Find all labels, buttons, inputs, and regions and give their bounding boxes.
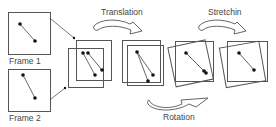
stage-rotated bbox=[168, 40, 214, 87]
overlay-segment-b bbox=[83, 53, 95, 75]
translated-frame-a bbox=[123, 41, 161, 83]
frame-1-point-a bbox=[18, 22, 22, 26]
frame-1-segment bbox=[20, 24, 35, 41]
translated-point bbox=[146, 79, 150, 83]
stretching-step: Stretchin bbox=[199, 7, 246, 34]
connector-frame-1 bbox=[51, 19, 74, 38]
stretched-point bbox=[252, 68, 256, 72]
stage-overlay bbox=[69, 41, 112, 88]
overlay-point bbox=[93, 73, 97, 77]
stretched-point bbox=[237, 51, 241, 55]
stage-translated bbox=[123, 41, 164, 86]
rotated-point bbox=[184, 51, 188, 55]
overlay-segment-a bbox=[88, 53, 102, 70]
stretching-arrow-icon bbox=[199, 20, 246, 34]
rotation-arrow-icon bbox=[148, 98, 208, 110]
translated-point bbox=[135, 50, 139, 54]
rotation-label: Rotation bbox=[163, 112, 195, 122]
frame-1-point-b bbox=[33, 39, 37, 43]
connector-frame-2-end bbox=[64, 87, 66, 89]
overlay-point bbox=[86, 51, 90, 55]
rotated-segment bbox=[186, 53, 205, 72]
stretching-label: Stretchin bbox=[208, 7, 242, 17]
frame-2-point-b bbox=[33, 96, 37, 100]
translated-segment-a bbox=[137, 52, 153, 75]
translated-segment-b bbox=[137, 52, 148, 81]
frame-1-label: Frame 1 bbox=[9, 56, 41, 66]
registration-diagram: Frame 1 Frame 2 Translation bbox=[0, 0, 276, 127]
overlay-point bbox=[100, 68, 104, 72]
rotated-frame-b bbox=[168, 40, 213, 87]
translation-step: Translation bbox=[94, 7, 143, 34]
frame-2-box bbox=[9, 70, 51, 112]
frame-2-point-a bbox=[21, 73, 25, 77]
connector-frame-2 bbox=[51, 88, 65, 99]
connector-frame-1-end bbox=[73, 37, 75, 39]
overlay-point bbox=[81, 51, 85, 55]
translation-label: Translation bbox=[101, 7, 143, 17]
frame-2-segment bbox=[23, 75, 35, 98]
frame-1-box bbox=[9, 13, 51, 55]
frame-2-label: Frame 2 bbox=[9, 113, 41, 123]
frame-2: Frame 2 bbox=[9, 70, 51, 124]
stretched-frame-b bbox=[219, 41, 265, 87]
rotation-step: Rotation bbox=[148, 98, 208, 122]
stretched-frame-a bbox=[228, 42, 268, 82]
translation-arrow-icon bbox=[94, 20, 142, 34]
stretched-segment bbox=[239, 53, 254, 70]
translated-point bbox=[151, 73, 155, 77]
stage-stretched bbox=[219, 41, 267, 87]
translated-frame-b bbox=[128, 46, 164, 86]
overlay-frame-b bbox=[69, 49, 104, 88]
rotated-point bbox=[204, 71, 208, 75]
frame-1: Frame 1 bbox=[9, 13, 51, 67]
